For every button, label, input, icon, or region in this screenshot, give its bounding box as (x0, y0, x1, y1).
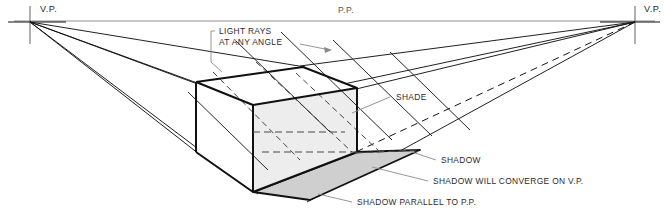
vp-right-ray-top-back (300, 22, 635, 66)
label-vanishing-point-left: V.P. (40, 4, 57, 15)
leader-shadow (412, 152, 436, 160)
vp-left-ray-bottom-left (30, 22, 199, 154)
label-light-rays-line2: AT ANY ANGLE (219, 37, 282, 48)
label-shadow-converge: SHADOW WILL CONVERGE ON V.P. (433, 176, 584, 187)
label-shadow-parallel: SHADOW PARALLEL TO P.P. (357, 197, 476, 208)
light-ray-5 (390, 52, 470, 130)
diagram-canvas: V.P. V.P. P.P. LIGHT RAYS AT ANY ANGLE S… (0, 0, 667, 215)
leader-shadow-converge (372, 167, 428, 181)
label-shadow: SHADOW (441, 155, 481, 166)
label-shade: SHADE (396, 92, 427, 103)
label-light-rays-line1: LIGHT RAYS (219, 26, 272, 37)
leader-arrowhead (324, 47, 332, 53)
vp-left-ray-top-left (30, 22, 200, 84)
label-picture-plane: P.P. (338, 5, 354, 16)
leader-shadow-parallel (318, 194, 352, 202)
label-vanishing-point-right: V.P. (644, 4, 661, 15)
